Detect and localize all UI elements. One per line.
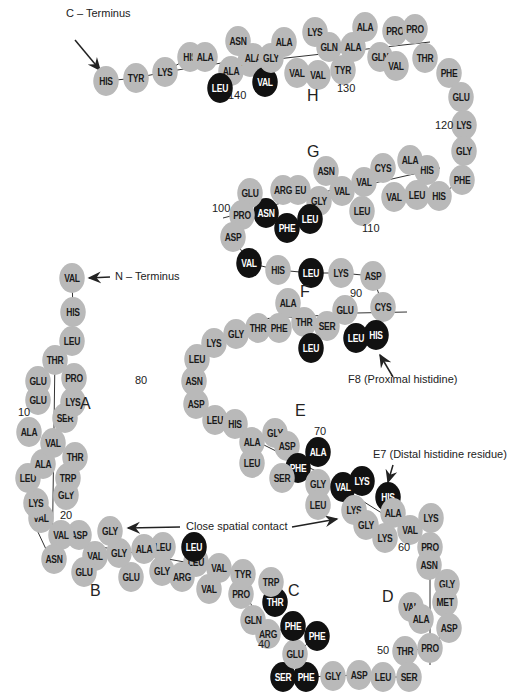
residue-his: HIS: [265, 255, 291, 285]
residue-leu: LEU: [370, 662, 396, 692]
helix-label-d: D: [382, 588, 394, 606]
residue-asn: ASN: [41, 544, 67, 574]
position-number: 40: [258, 638, 270, 650]
residue-lys: LYS: [349, 466, 375, 496]
residue-phe: PHE: [304, 621, 330, 651]
helix-label-g: G: [307, 143, 319, 161]
position-number: 110: [362, 222, 380, 234]
residue-gln: GLN: [240, 605, 266, 635]
residue-thr: THR: [245, 313, 271, 343]
position-number: 100: [212, 202, 230, 214]
residue-ser: SER: [269, 463, 295, 493]
position-number: 60: [398, 541, 410, 553]
residue-leu: LEU: [305, 490, 331, 520]
helix-label-h: H: [307, 87, 319, 105]
distal-histidine-label: E7 (Distal histidine residue): [373, 448, 507, 460]
helix-label-b: B: [90, 582, 101, 600]
residue-his: HIS: [60, 297, 86, 327]
residue-leu: LEU: [343, 323, 369, 353]
residue-val: VAL: [59, 263, 85, 293]
residue-ala: ALA: [16, 417, 42, 447]
residue-trp: TRP: [258, 567, 284, 597]
residue-leu: LEU: [239, 448, 265, 478]
residue-his: HIS: [426, 181, 452, 211]
residue-val: VAL: [196, 574, 222, 604]
residue-thr: THR: [412, 43, 438, 73]
helix-label-f: F: [300, 283, 310, 301]
residue-phe: PHE: [449, 165, 475, 195]
residue-val: VAL: [383, 51, 409, 81]
residue-leu: LEU: [181, 532, 207, 562]
residue-val: VAL: [236, 248, 262, 278]
residue-glu: GLU: [448, 82, 474, 112]
residue-lys: LYS: [152, 57, 178, 87]
residue-ser: SER: [396, 662, 422, 692]
residue-thr: THR: [62, 442, 88, 472]
residue-gly: GLY: [451, 136, 477, 166]
n-terminus-label: N – Terminus: [115, 270, 180, 282]
position-number: 50: [377, 644, 389, 656]
residue-asp: ASP: [346, 660, 372, 690]
residue-lys: LYS: [328, 258, 354, 288]
residue-ala: ALA: [271, 27, 297, 57]
residue-val: VAL: [351, 167, 377, 197]
position-number: 80: [135, 374, 147, 386]
residue-val: VAL: [381, 182, 407, 212]
residue-ala: ALA: [397, 145, 423, 175]
residue-ala: ALA: [192, 42, 218, 72]
residue-pro: PRO: [402, 14, 428, 44]
residue-gly: GLY: [320, 661, 346, 691]
residue-leu: LEU: [59, 326, 85, 356]
helix-label-e: E: [295, 402, 306, 420]
residue-tyr: TYR: [230, 559, 256, 589]
residue-ala: ALA: [408, 604, 434, 634]
residue-lys: LYS: [418, 503, 444, 533]
residue-ala: ALA: [131, 534, 157, 564]
close-spatial-contact-label: Close spatial contact: [186, 520, 288, 532]
position-number: 140: [228, 89, 246, 101]
position-number: 120: [435, 119, 453, 131]
residue-cys: CYS: [370, 292, 396, 322]
residue-val: VAL: [305, 60, 331, 90]
residue-phe: PHE: [280, 611, 306, 641]
residue-asp: ASP: [220, 222, 246, 252]
residue-ala: ALA: [305, 437, 331, 467]
helix-label-c: C: [288, 582, 300, 600]
position-number: 130: [337, 82, 355, 94]
residue-pro: PRO: [417, 633, 443, 663]
residue-glu: GLU: [282, 639, 308, 669]
position-number: 70: [314, 425, 326, 437]
position-number: 10: [18, 406, 30, 418]
helix-label-a: A: [80, 395, 91, 413]
residue-leu: LEU: [404, 180, 430, 210]
proximal-histidine-label: F8 (Proximal histidine): [348, 373, 457, 385]
residue-leu: LEU: [297, 204, 323, 234]
residue-leu: LEU: [298, 333, 324, 363]
position-number: 20: [60, 509, 72, 521]
hemoglobin-structure-diagram: HISTYRLYSHISALAALALEUASNALAALAVALGLYALAV…: [0, 0, 523, 699]
residue-lys: LYS: [372, 523, 398, 553]
position-number: 90: [350, 287, 362, 299]
residue-ala: ALA: [352, 12, 378, 42]
residue-tyr: TYR: [123, 63, 149, 93]
residue-his: HIS: [93, 66, 119, 96]
c-terminus-label: C – Terminus: [66, 7, 131, 19]
residue-gly: GLY: [97, 516, 123, 546]
residue-gly: GLY: [223, 319, 249, 349]
residue-asp: ASP: [360, 261, 386, 291]
